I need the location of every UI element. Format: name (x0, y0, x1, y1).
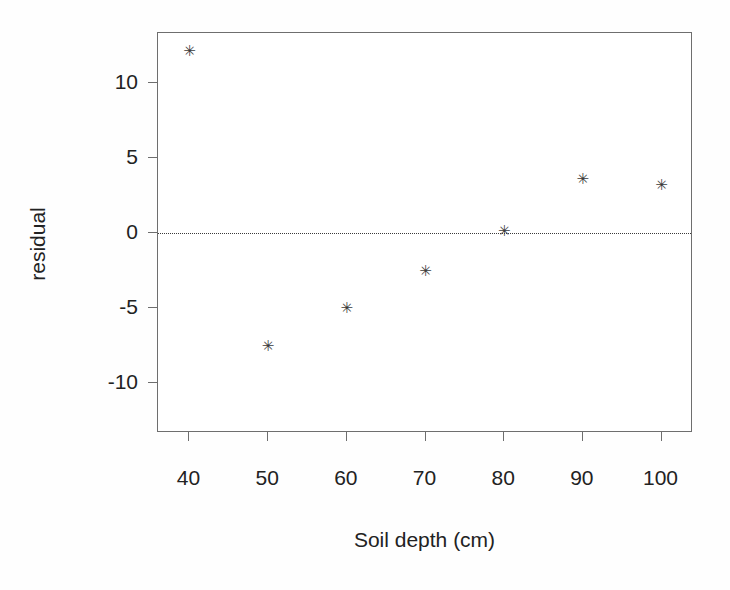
plot-area: ✳ ✳ ✳ ✳ ✳ ✳ ✳ (157, 32, 692, 432)
y-axis-tick (148, 157, 157, 158)
y-axis-tick (148, 382, 157, 383)
y-axis-tick-label: 10 (115, 70, 138, 94)
y-axis-tick-label: 0 (126, 220, 138, 244)
x-axis-tick (661, 432, 662, 441)
x-axis-tick (582, 432, 583, 441)
zero-reference-line (158, 233, 691, 234)
x-axis-tick-label: 40 (177, 466, 200, 490)
data-point: ✳ (655, 177, 668, 192)
x-axis-tick (188, 432, 189, 441)
x-axis-tick (346, 432, 347, 441)
x-axis-tick-label: 50 (255, 466, 278, 490)
y-axis-tick-label: 5 (126, 145, 138, 169)
x-axis-tick (267, 432, 268, 441)
x-axis-tick (503, 432, 504, 441)
data-point: ✳ (419, 263, 432, 278)
data-point: ✳ (498, 224, 511, 239)
x-axis-tick-label: 100 (643, 466, 678, 490)
y-axis-tick (148, 307, 157, 308)
y-axis-title: residual (26, 144, 50, 344)
residual-scatter-chart: ✳ ✳ ✳ ✳ ✳ ✳ ✳ 40 50 60 70 80 90 100 10 5… (0, 0, 730, 590)
x-axis-tick-label: 80 (491, 466, 514, 490)
data-point: ✳ (262, 338, 275, 353)
x-axis-tick (425, 432, 426, 441)
x-axis-title: Soil depth (cm) (157, 528, 692, 552)
y-axis-tick-label: -5 (119, 295, 138, 319)
x-axis-tick-label: 60 (334, 466, 357, 490)
y-axis-tick (148, 82, 157, 83)
x-axis-tick-label: 90 (570, 466, 593, 490)
y-axis-tick-label: -10 (108, 370, 138, 394)
data-point: ✳ (577, 171, 590, 186)
x-axis-tick-label: 70 (413, 466, 436, 490)
data-point: ✳ (183, 44, 196, 59)
y-axis-tick (148, 232, 157, 233)
data-point: ✳ (341, 301, 354, 316)
